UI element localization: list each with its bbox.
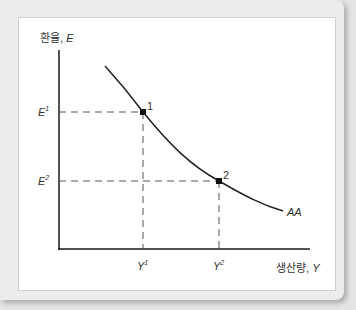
y-axis-label: 환율, E bbox=[40, 32, 74, 44]
aa-curve-diagram: 환율, E 생산량, Y E1 E2 Y1 Y2 1 2 AA bbox=[0, 0, 356, 310]
point-2-label: 2 bbox=[223, 169, 229, 181]
aa-curve-label: AA bbox=[286, 206, 302, 218]
y2-tick-label: Y2 bbox=[213, 259, 224, 272]
y1-tick-label: Y1 bbox=[137, 259, 148, 272]
point-2-marker bbox=[216, 178, 222, 184]
point-1-marker bbox=[140, 109, 146, 115]
e1-tick-label: E1 bbox=[38, 105, 49, 118]
x-axis-label: 생산량, Y bbox=[276, 262, 320, 274]
point-1-label: 1 bbox=[147, 100, 153, 112]
aa-curve bbox=[105, 66, 283, 211]
e2-tick-label: E2 bbox=[38, 174, 49, 187]
